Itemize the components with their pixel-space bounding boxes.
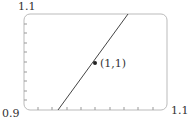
chart-plot bbox=[0, 0, 190, 123]
x-max-label: 1.1 bbox=[171, 104, 189, 117]
tick-marks bbox=[24, 24, 153, 110]
y-max-label: 1.1 bbox=[18, 0, 36, 13]
point-label: (1,1) bbox=[100, 57, 126, 70]
point-marker bbox=[93, 61, 97, 65]
origin-label: 0.9 bbox=[2, 107, 20, 120]
